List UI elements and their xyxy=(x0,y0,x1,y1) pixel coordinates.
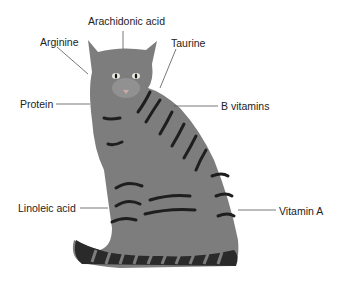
label-vitamin-a: Vitamin A xyxy=(279,205,323,217)
label-arginine: Arginine xyxy=(40,36,79,48)
label-protein: Protein xyxy=(20,98,53,110)
label-linoleic-acid: Linoleic acid xyxy=(18,202,76,214)
label-arachidonic-acid: Arachidonic acid xyxy=(88,15,165,27)
label-b-vitamins: B vitamins xyxy=(221,100,269,112)
nutrient-diagram: Arachidonic acid Arginine Taurine Protei… xyxy=(0,0,343,286)
label-taurine: Taurine xyxy=(171,37,205,49)
cat-body xyxy=(73,40,239,268)
